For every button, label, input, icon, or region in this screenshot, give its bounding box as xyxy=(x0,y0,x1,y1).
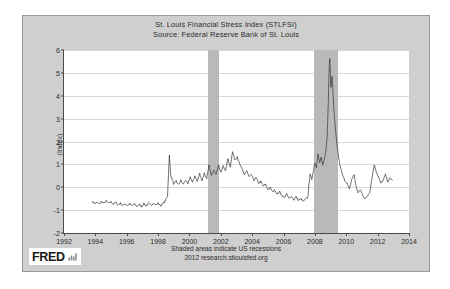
y-axis-tick-mark xyxy=(61,187,64,188)
y-axis-tick-label: -2 xyxy=(54,230,60,237)
y-axis-tick-mark xyxy=(61,72,64,73)
x-axis-tick-mark xyxy=(95,233,96,236)
x-axis-tick-mark xyxy=(409,233,410,236)
y-axis-tick-label: 3 xyxy=(56,115,60,122)
y-axis-tick-label: 4 xyxy=(56,92,60,99)
x-axis-tick-mark xyxy=(158,233,159,236)
y-axis-tick-mark xyxy=(61,164,64,165)
x-axis-tick-mark xyxy=(252,233,253,236)
x-axis-tick-mark xyxy=(315,233,316,236)
y-axis-tick-label: 2 xyxy=(56,138,60,145)
x-axis-tick-mark xyxy=(189,233,190,236)
chart-title: St. Louis Financial Stress Index (STLFSI… xyxy=(23,20,429,30)
series-line-stlfsi xyxy=(64,50,409,233)
screenshot-page: St. Louis Financial Stress Index (STLFSI… xyxy=(0,0,450,289)
x-axis-tick-mark xyxy=(127,233,128,236)
y-axis-tick-label: 5 xyxy=(56,69,60,76)
y-axis-tick-mark xyxy=(61,50,64,51)
y-axis-tick-label: -1 xyxy=(54,207,60,214)
y-axis-tick-mark xyxy=(61,210,64,211)
y-axis-tick-mark xyxy=(61,141,64,142)
y-axis-tick-label: 1 xyxy=(56,161,60,168)
y-axis-tick-mark xyxy=(61,118,64,119)
plot-inner xyxy=(64,50,409,233)
fred-logo[interactable]: FRED xyxy=(29,248,81,265)
y-axis-tick-label: 6 xyxy=(56,47,60,54)
plot-area: -2-10123456 1992199419961998200020022004… xyxy=(63,50,409,234)
x-axis-tick-mark xyxy=(378,233,379,236)
source-url: 2012 research.stlouisfed.org xyxy=(23,253,429,262)
x-axis-tick-mark xyxy=(346,233,347,236)
y-axis-tick-label: 0 xyxy=(56,184,60,191)
chart-title-block: St. Louis Financial Stress Index (STLFSI… xyxy=(23,20,429,40)
recession-note: Shaded areas indicate US recessions xyxy=(23,244,429,253)
chart-source: Source: Federal Reserve Bank of St. Loui… xyxy=(23,30,429,40)
x-axis-tick-mark xyxy=(64,233,65,236)
bar-chart-icon xyxy=(68,252,78,261)
x-axis-tick-mark xyxy=(221,233,222,236)
y-axis-tick-mark xyxy=(61,95,64,96)
fred-wordmark: FRED xyxy=(32,250,65,264)
fred-chart-card: St. Louis Financial Stress Index (STLFSI… xyxy=(22,15,430,272)
x-axis-tick-mark xyxy=(284,233,285,236)
chart-footer-block: Shaded areas indicate US recessions 2012… xyxy=(23,244,429,262)
